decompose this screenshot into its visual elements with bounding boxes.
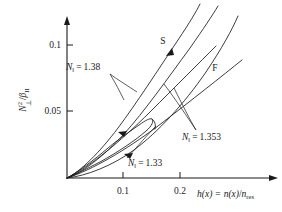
annotation-138-par: ‖ bbox=[72, 66, 74, 73]
y-axis-arrowhead bbox=[64, 16, 70, 25]
leader-1353-b bbox=[164, 84, 196, 130]
x-axis-title: h(x)=n(x)/nres bbox=[197, 189, 254, 200]
figure-container: 0.1 0.05 0.1 0.2 N2⊥/βII h(x)=n(x)/nres bbox=[0, 0, 282, 212]
curve-slow-1p33 bbox=[67, 16, 238, 178]
annotation-n-parallel-1353: N‖=1.353 bbox=[181, 132, 221, 143]
axes bbox=[64, 16, 278, 181]
y-axis-title: N2⊥/βII bbox=[16, 88, 32, 112]
x-axis-title-x1: (x) bbox=[202, 189, 213, 200]
arrow-slow-upper bbox=[166, 48, 174, 56]
curve-group bbox=[67, 4, 242, 178]
leader-138-a bbox=[110, 74, 124, 100]
annotation-n-parallel-138: N‖=1.38 bbox=[65, 62, 100, 73]
annotation-133-eq: = bbox=[138, 158, 143, 168]
annotation-1353-value: 1.353 bbox=[200, 132, 222, 142]
y-axis-title-beta-sub: II bbox=[23, 88, 30, 92]
y-tick-label-0.05: 0.05 bbox=[44, 106, 61, 116]
x-tick-label-0.2: 0.2 bbox=[174, 186, 186, 196]
x-axis-title-res: res bbox=[246, 193, 254, 200]
curve-slow-1p353 bbox=[67, 6, 218, 178]
x-axis-title-eq: = bbox=[215, 189, 220, 199]
annotation-138-value: 1.38 bbox=[84, 62, 101, 72]
leader-138-b bbox=[110, 74, 137, 92]
annotation-1353-eq: = bbox=[192, 132, 197, 142]
y-tick-label-0.1: 0.1 bbox=[49, 40, 61, 50]
svg-text:N2⊥/βII: N2⊥/βII bbox=[16, 88, 32, 112]
annotation-133-par: ‖ bbox=[134, 162, 136, 169]
annotation-133-value: 1.33 bbox=[146, 158, 163, 168]
y-axis-title-sup: 2 bbox=[16, 102, 23, 105]
curve-slow-1p38 bbox=[67, 4, 200, 178]
annotation-1353-par: ‖ bbox=[188, 136, 190, 143]
flow-arrows bbox=[118, 48, 174, 159]
x-tick-label-0.1: 0.1 bbox=[117, 186, 129, 196]
x-axis-arrowhead bbox=[269, 175, 278, 181]
label-fast-branch: F bbox=[212, 63, 217, 73]
annotation-138-eq: = bbox=[76, 62, 81, 72]
dispersion-plot: 0.1 0.05 0.1 0.2 N2⊥/βII h(x)=n(x)/nres bbox=[0, 0, 282, 212]
label-slow-branch: S bbox=[160, 36, 165, 46]
x-axis-title-x2: (x) bbox=[228, 189, 239, 200]
annotation-n-parallel-133: N‖=1.33 bbox=[127, 158, 162, 169]
